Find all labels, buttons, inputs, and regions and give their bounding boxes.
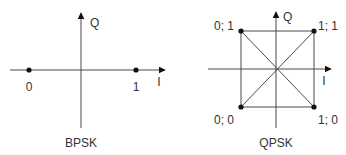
qpsk-caption: QPSK: [259, 136, 292, 150]
constellation-diagrams: 0 1 I Q BPSK 0; 1 1; 1 0; 0 1; 0 I Q QPS…: [0, 0, 346, 155]
qpsk-point-00-label: 0; 0: [214, 113, 234, 127]
qpsk-point-11: [311, 28, 316, 33]
qpsk-point-10-label: 1; 0: [318, 113, 338, 127]
qpsk-i-axis-label: I: [322, 74, 325, 88]
qpsk-point-01-label: 0; 1: [214, 19, 234, 33]
bpsk-point-0: [26, 67, 31, 72]
qpsk-point-11-label: 1; 1: [318, 19, 338, 33]
bpsk-caption: BPSK: [65, 136, 97, 150]
qpsk-point-00: [238, 104, 243, 109]
bpsk-i-axis-label: I: [157, 75, 160, 89]
qpsk-q-axis-label: Q: [283, 10, 292, 24]
bpsk-point-1: [133, 67, 138, 72]
bpsk-point-0-label: 0: [26, 80, 33, 94]
bpsk-point-1-label: 1: [133, 80, 140, 94]
qpsk-diagram: 0; 1 1; 1 0; 0 1; 0 I Q QPSK: [208, 10, 338, 150]
bpsk-diagram: 0 1 I Q BPSK: [10, 13, 165, 150]
qpsk-point-10: [311, 104, 316, 109]
qpsk-point-01: [238, 28, 243, 33]
bpsk-q-axis-label: Q: [90, 16, 99, 30]
